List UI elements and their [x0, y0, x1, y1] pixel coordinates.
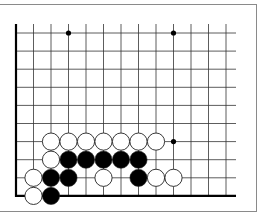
- white-stone: [42, 151, 59, 168]
- white-stone: [95, 133, 112, 150]
- black-stone: [42, 169, 59, 186]
- white-stone: [95, 169, 112, 186]
- black-stone: [60, 169, 77, 186]
- black-stone: [42, 187, 59, 204]
- go-board: [0, 0, 261, 224]
- black-stone: [130, 169, 147, 186]
- white-stone: [147, 133, 164, 150]
- star-point: [66, 30, 71, 35]
- black-stone: [112, 151, 129, 168]
- white-stone: [25, 187, 42, 204]
- white-stone: [42, 133, 59, 150]
- white-stone: [25, 169, 42, 186]
- black-stone: [77, 151, 94, 168]
- white-stone: [147, 169, 164, 186]
- black-stone: [95, 151, 112, 168]
- black-stone: [130, 151, 147, 168]
- black-stone: [60, 151, 77, 168]
- white-stone: [60, 133, 77, 150]
- star-point: [171, 30, 176, 35]
- white-stone: [130, 133, 147, 150]
- star-point: [171, 139, 176, 144]
- white-stone: [112, 133, 129, 150]
- white-stone: [77, 133, 94, 150]
- white-stone: [165, 169, 182, 186]
